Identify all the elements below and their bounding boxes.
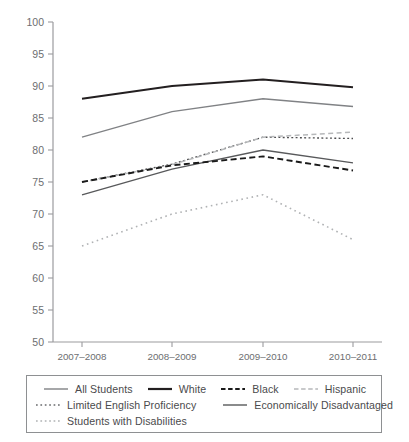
series-line-white: [82, 80, 353, 99]
legend-item-white[interactable]: White: [147, 383, 207, 395]
series-line-students-with-disabilities: [82, 195, 353, 246]
legend-swatch-icon: [35, 416, 61, 426]
y-tick-label: 50: [32, 336, 44, 348]
legend-label: White: [179, 383, 207, 395]
series-line-black: [82, 156, 353, 182]
y-tick-label: 55: [32, 304, 44, 316]
legend-label: Black: [252, 383, 278, 395]
series-line-all-students: [82, 99, 353, 137]
y-tick-label: 65: [32, 240, 44, 252]
legend-label: Economically Disadvantaged: [254, 399, 393, 411]
legend-item-limited-english-proficiency[interactable]: Limited English Proficiency: [35, 399, 196, 411]
x-tick-label: 2009–2010: [238, 351, 288, 362]
chart-legend: All StudentsWhiteBlackHispanicLimited En…: [26, 375, 382, 433]
legend-item-hispanic[interactable]: Hispanic: [293, 383, 366, 395]
y-tick-label: 95: [32, 48, 44, 60]
line-chart: 10095908580757065605550 2007–20082008–20…: [0, 0, 409, 442]
y-tick-label: 100: [26, 16, 44, 28]
legend-item-students-with-disabilities[interactable]: Students with Disabilities: [35, 415, 187, 427]
legend-rows: All StudentsWhiteBlackHispanicLimited En…: [27, 376, 381, 429]
legend-swatch-icon: [220, 384, 246, 394]
legend-item-black[interactable]: Black: [220, 383, 278, 395]
legend-label: All Students: [75, 383, 133, 395]
y-tick-label: 70: [32, 208, 44, 220]
legend-item-all-students[interactable]: All Students: [43, 383, 133, 395]
legend-row: Students with Disabilities: [27, 413, 381, 429]
legend-row: All StudentsWhiteBlackHispanic: [27, 381, 381, 397]
y-axis-ticks: 10095908580757065605550: [26, 16, 53, 348]
legend-swatch-icon: [222, 400, 248, 410]
y-tick-label: 80: [32, 144, 44, 156]
x-tick-label: 2010–2011: [329, 351, 377, 362]
plot-svg: 10095908580757065605550 2007–20082008–20…: [0, 0, 409, 372]
legend-swatch-icon: [293, 384, 319, 394]
legend-swatch-icon: [147, 384, 173, 394]
x-tick-label: 2008–2009: [147, 351, 196, 362]
legend-label: Hispanic: [325, 383, 366, 395]
y-tick-label: 75: [32, 176, 44, 188]
plot-area: 10095908580757065605550 2007–20082008–20…: [0, 0, 409, 372]
y-tick-label: 90: [32, 80, 44, 92]
legend-label: Limited English Proficiency: [67, 399, 196, 411]
x-axis-ticks: 2007–20082008–20092009–20102010–2011: [57, 342, 377, 362]
series-layer: [82, 80, 353, 246]
legend-row: Limited English ProficiencyEconomically …: [27, 397, 381, 413]
y-tick-label: 60: [32, 272, 44, 284]
legend-item-economically-disadvantaged[interactable]: Economically Disadvantaged: [222, 399, 393, 411]
legend-swatch-icon: [35, 400, 61, 410]
x-tick-label: 2007–2008: [57, 351, 107, 362]
series-line-economically-disadvantaged: [82, 150, 353, 195]
legend-label: Students with Disabilities: [67, 415, 187, 427]
legend-swatch-icon: [43, 384, 69, 394]
y-tick-label: 85: [32, 112, 44, 124]
